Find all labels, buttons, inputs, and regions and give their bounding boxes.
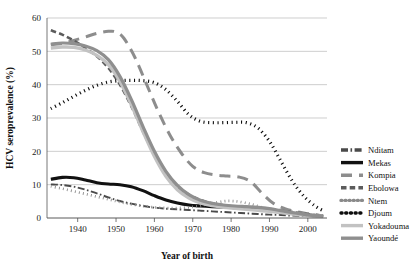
legend-label-mekas: Mekas bbox=[368, 158, 392, 168]
x-tick-label: 1990 bbox=[260, 224, 279, 234]
y-tick-label: 20 bbox=[32, 147, 42, 157]
x-axis-title: Year of birth bbox=[161, 251, 214, 261]
x-tick-label: 1960 bbox=[145, 224, 164, 234]
legend-label-ebolowa: Ebolowa bbox=[368, 183, 399, 193]
y-tick-label: 0 bbox=[37, 213, 42, 223]
hcv-seroprevalence-line-chart: 1940195019601970198019902000 01020304050… bbox=[0, 0, 415, 265]
legend-label-yokadouma: Yokadouma bbox=[368, 221, 409, 231]
y-tick-label: 30 bbox=[32, 113, 42, 123]
x-tick-label: 2000 bbox=[299, 224, 318, 234]
legend-label-nditam: Nditam bbox=[368, 145, 394, 155]
y-axis-title: HCV seroprevalence (%) bbox=[5, 67, 16, 169]
y-tick-label: 40 bbox=[32, 80, 42, 90]
y-tick-label: 10 bbox=[32, 180, 42, 190]
legend-label-kompia: Kompia bbox=[368, 170, 396, 180]
x-tick-label: 1950 bbox=[107, 224, 126, 234]
y-tick-label: 60 bbox=[32, 13, 42, 23]
y-tick-label: 50 bbox=[32, 47, 42, 57]
x-tick-label: 1940 bbox=[69, 224, 88, 234]
legend-label-djoum: Djoum bbox=[368, 208, 392, 218]
x-tick-label: 1980 bbox=[222, 224, 241, 234]
legend-label-yaound: Yaoundé bbox=[368, 233, 398, 243]
legend-label-ntem: Ntem bbox=[368, 196, 387, 206]
x-tick-label: 1970 bbox=[184, 224, 203, 234]
